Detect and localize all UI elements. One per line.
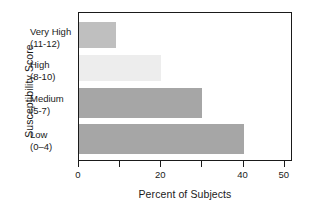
x-tick-label-20: 20	[145, 169, 175, 180]
x-tick-10	[119, 161, 120, 167]
category-range: (8-10)	[30, 71, 76, 83]
plot-area	[78, 12, 292, 161]
category-range: (11-12)	[30, 38, 76, 50]
bar-chart: Susceptibility Score Very High (11-12) H…	[0, 0, 315, 211]
category-range: (0–4)	[30, 141, 76, 153]
x-tick-0	[78, 161, 79, 167]
x-tick-label-50: 50	[269, 169, 299, 180]
bar-high	[79, 55, 161, 81]
bar-low	[79, 124, 244, 154]
category-name: Very High	[30, 26, 76, 38]
category-label-high: High (8-10)	[30, 59, 76, 82]
category-label-low: Low (0–4)	[30, 129, 76, 152]
x-tick-20	[160, 161, 161, 167]
bar-medium	[79, 88, 202, 118]
x-tick-50	[284, 161, 285, 167]
x-tick-30	[201, 161, 202, 167]
category-name: High	[30, 59, 76, 71]
category-label-medium: Medium (5-7)	[30, 93, 76, 116]
x-tick-label-0: 0	[63, 169, 93, 180]
category-label-very-high: Very High (11-12)	[30, 26, 76, 49]
category-name: Medium	[30, 93, 76, 105]
x-tick-label-40: 40	[228, 169, 258, 180]
category-name: Low	[30, 129, 76, 141]
category-range: (5-7)	[30, 105, 76, 117]
x-axis-title: Percent of Subjects	[78, 188, 292, 200]
x-tick-40	[243, 161, 244, 167]
bar-very-high	[79, 22, 116, 48]
